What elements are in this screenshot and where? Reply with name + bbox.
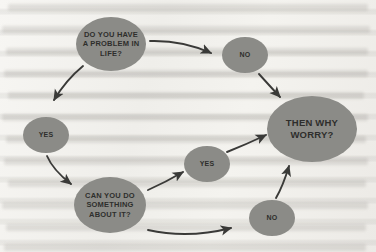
node-label: NO (236, 51, 255, 60)
node-label: DO YOU HAVEA PROBLEM INLIFE? (79, 30, 144, 59)
edge-problem-to-yes-left (54, 66, 83, 100)
edge-yes-left-to-can-do (47, 156, 71, 184)
node-label: YES (196, 160, 219, 169)
node-answer-yes-left[interactable]: YES (23, 117, 69, 153)
node-question-can-do[interactable]: CAN YOU DOSOMETHINGABOUT IT? (74, 177, 146, 233)
node-answer-no-bottom[interactable]: NO (249, 200, 295, 236)
edge-can-do-to-yes-mid (148, 172, 183, 190)
edge-problem-to-no-top (150, 41, 211, 53)
flowchart-page: DO YOU HAVEA PROBLEM INLIFE? NO YES CAN … (0, 0, 376, 252)
node-answer-no-top[interactable]: NO (222, 37, 268, 73)
edge-yes-mid-to-worry (227, 135, 266, 152)
node-label: NO (263, 214, 282, 223)
node-label: CAN YOU DOSOMETHINGABOUT IT? (81, 191, 139, 220)
edge-no-top-to-worry (259, 74, 280, 97)
node-answer-yes-middle[interactable]: YES (184, 146, 230, 182)
node-label: THEN WHYWORRY? (282, 117, 342, 141)
node-label: YES (35, 131, 58, 140)
edge-no-bottom-to-worry (276, 166, 289, 198)
node-conclusion-why-worry[interactable]: THEN WHYWORRY? (267, 96, 357, 162)
node-question-problem[interactable]: DO YOU HAVEA PROBLEM INLIFE? (76, 17, 146, 71)
edge-can-do-to-no-bottom (148, 228, 231, 234)
